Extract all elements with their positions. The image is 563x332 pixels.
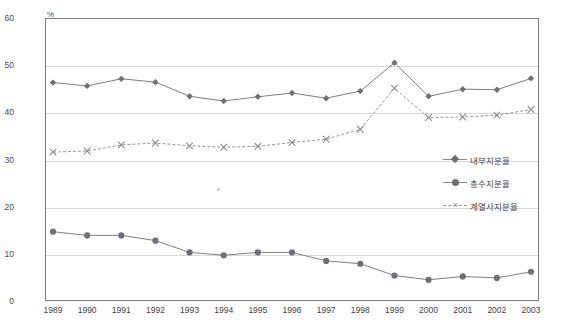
legend-label: 내부지분율 <box>470 154 510 166</box>
data-point <box>50 229 56 235</box>
x-marker-icon: × <box>443 201 467 211</box>
x-axis-tick-label: 2002 <box>487 305 506 315</box>
legend-item-naebu: 내부지분율 <box>443 148 555 171</box>
data-point <box>357 126 364 133</box>
data-point <box>255 249 261 255</box>
x-axis-tick-label: 2001 <box>453 305 472 315</box>
data-point <box>528 269 534 275</box>
data-point <box>391 85 398 92</box>
x-axis-tick-label: 1998 <box>351 305 370 315</box>
x-axis-tick-label: 1994 <box>214 305 233 315</box>
data-point <box>152 238 158 244</box>
y-axis-tick-label: 30 <box>0 155 14 165</box>
data-point <box>186 249 192 255</box>
x-axis-tick-label: 1999 <box>385 305 404 315</box>
y-axis-tick-label: 40 <box>0 107 14 117</box>
data-point <box>186 143 193 150</box>
data-point <box>84 232 90 238</box>
x-axis-tick-label: 1990 <box>78 305 97 315</box>
y-axis-tick-label: 50 <box>0 60 14 70</box>
y-axis-tick-label: 60 <box>0 13 14 23</box>
legend-item-gyeyeolsa: × 계열사지분율 <box>443 194 555 217</box>
x-axis-tick-label: 1989 <box>44 305 63 315</box>
data-point <box>289 90 295 96</box>
data-point <box>494 275 500 281</box>
series-line <box>53 232 531 280</box>
x-axis-labels: 1989199019911992199319941995199619971998… <box>45 305 539 321</box>
series-diamond <box>50 60 534 105</box>
data-point <box>255 94 261 100</box>
data-point <box>50 79 56 85</box>
data-point <box>220 144 227 151</box>
y-axis-tick-label: 10 <box>0 249 14 259</box>
x-axis-tick-label: 1997 <box>317 305 336 315</box>
data-point <box>323 95 329 101</box>
legend-label: 계열사지분율 <box>470 200 518 212</box>
data-point <box>289 249 295 255</box>
circle-marker-icon <box>443 178 467 188</box>
x-axis-tick-label: 1993 <box>180 305 199 315</box>
x-axis-tick-label: 1991 <box>112 305 131 315</box>
data-point <box>221 98 227 104</box>
legend-label: 총수지분율 <box>470 177 510 189</box>
data-point <box>425 277 431 283</box>
y-axis-tick-label: 20 <box>0 202 14 212</box>
chart-legend: 내부지분율 총수지분율 × 계열사지분율 <box>443 148 555 217</box>
data-point <box>118 76 124 82</box>
legend-item-chongsu: 총수지분율 <box>443 171 555 194</box>
diamond-marker-icon <box>443 155 467 165</box>
data-point <box>323 258 329 264</box>
data-point <box>221 252 227 258</box>
data-point <box>357 261 363 267</box>
x-axis-tick-label: 2000 <box>419 305 438 315</box>
x-axis-tick-label: 1995 <box>248 305 267 315</box>
data-point <box>494 112 501 119</box>
data-point <box>459 114 466 121</box>
data-point <box>460 86 466 92</box>
x-axis-tick-label: 1992 <box>146 305 165 315</box>
data-point <box>528 75 534 81</box>
data-point <box>152 79 158 85</box>
data-point <box>494 86 500 92</box>
data-point <box>391 272 397 278</box>
data-point <box>528 106 535 113</box>
data-point <box>186 93 192 99</box>
scan-speck <box>217 188 220 191</box>
series-circle <box>50 229 534 283</box>
x-axis-tick-label: 1996 <box>283 305 302 315</box>
x-axis-tick-label: 2003 <box>522 305 541 315</box>
data-point <box>460 273 466 279</box>
data-point <box>84 83 90 89</box>
y-axis-tick-label: 0 <box>0 296 14 306</box>
data-point <box>118 232 124 238</box>
